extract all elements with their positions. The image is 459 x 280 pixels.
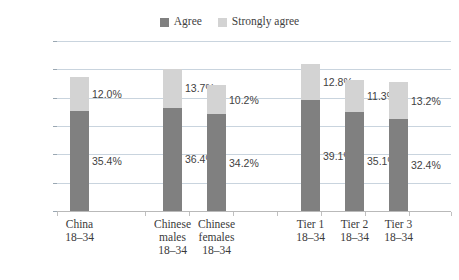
gridline — [57, 41, 451, 42]
y-axis-tickmark — [53, 154, 57, 155]
bar-1[interactable] — [70, 77, 89, 211]
category-label-line: females — [177, 231, 257, 244]
bar-segment-strongly-agree[interactable] — [301, 64, 320, 100]
category-label-line: Chinese — [177, 218, 257, 231]
data-label-agree: 34.2% — [229, 158, 259, 169]
x-axis-tickmark — [321, 212, 322, 216]
bar-5[interactable] — [345, 80, 364, 211]
bar-segment-strongly-agree[interactable] — [163, 69, 182, 108]
y-axis-tickmark — [53, 41, 57, 42]
bar-segment-agree[interactable] — [163, 108, 182, 211]
legend-label: Agree — [174, 16, 202, 28]
y-axis-tickmark — [53, 69, 57, 70]
x-axis-category-label-3: Chinesefemales18–34 — [177, 218, 257, 257]
bar-6[interactable] — [389, 82, 408, 211]
x-axis-tickmark — [233, 212, 234, 216]
bar-segment-agree[interactable] — [301, 100, 320, 211]
data-label-strongly-agree: 10.2% — [229, 95, 259, 106]
y-axis-tickmark — [53, 98, 57, 99]
data-label-agree: 32.4% — [411, 160, 441, 171]
bar-3[interactable] — [207, 85, 226, 211]
gridline — [57, 69, 451, 70]
category-label-line: China — [40, 218, 120, 231]
x-axis-tickmark — [365, 212, 366, 216]
x-axis-tickmark — [409, 212, 410, 216]
bar-segment-strongly-agree[interactable] — [207, 85, 226, 114]
x-axis-category-label-6: Tier 318–34 — [359, 218, 439, 244]
bar-segment-strongly-agree[interactable] — [70, 77, 89, 111]
legend-label: Strongly agree — [232, 16, 299, 28]
bar-segment-agree[interactable] — [70, 111, 89, 211]
stacked-bar-chart: AgreeStrongly agree 60.0%50.0%40.0%30.0%… — [0, 0, 459, 280]
x-axis-tickmark — [451, 212, 452, 216]
data-label-strongly-agree: 13.2% — [411, 96, 441, 107]
bar-segment-strongly-agree[interactable] — [389, 82, 408, 119]
legend-swatch-icon — [218, 18, 227, 27]
x-axis-tickmark — [277, 212, 278, 216]
bar-segment-agree[interactable] — [389, 119, 408, 211]
bar-segment-agree[interactable] — [207, 114, 226, 211]
category-label-line: 18–34 — [359, 231, 439, 244]
x-axis-tickmark — [57, 212, 58, 216]
y-axis-tickmark — [53, 126, 57, 127]
legend-swatch-icon — [160, 18, 169, 27]
category-label-line: 18–34 — [177, 244, 257, 257]
legend-entry-agree[interactable]: Agree — [160, 16, 202, 28]
bar-segment-agree[interactable] — [345, 112, 364, 211]
data-label-agree: 35.4% — [92, 156, 122, 167]
category-label-line: Tier 3 — [359, 218, 439, 231]
data-label-strongly-agree: 12.0% — [92, 89, 122, 100]
plot-area: 60.0%50.0%40.0%30.0%20.0%10.0%0.0%35.4%1… — [57, 41, 451, 211]
legend-entry-strongly-agree[interactable]: Strongly agree — [218, 16, 299, 28]
x-axis-tick-strip — [57, 212, 451, 216]
y-axis-tickmark — [53, 183, 57, 184]
chart-legend: AgreeStrongly agree — [0, 14, 459, 30]
x-axis-tickmark — [145, 212, 146, 216]
bar-2[interactable] — [163, 69, 182, 211]
category-label-line: 18–34 — [40, 231, 120, 244]
bar-segment-strongly-agree[interactable] — [345, 80, 364, 112]
x-axis-category-label-1: China18–34 — [40, 218, 120, 244]
x-axis-tickmark — [189, 212, 190, 216]
bar-4[interactable] — [301, 64, 320, 211]
